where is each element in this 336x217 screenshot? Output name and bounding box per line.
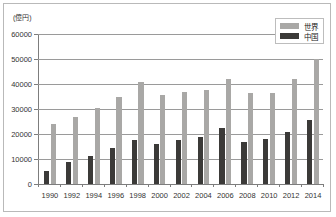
- bar-中国-1990: [44, 171, 49, 184]
- x-axis-tick: [148, 184, 149, 187]
- legend-item-世界: 世界: [280, 21, 318, 31]
- y-axis-tick-label: 40000: [11, 80, 32, 89]
- legend-swatch: [280, 23, 299, 29]
- bar-中国-2002: [176, 140, 181, 184]
- bar-中国-1992: [66, 162, 71, 184]
- x-axis-tick-label: 1998: [129, 191, 146, 200]
- bar-中国-2004: [198, 137, 203, 184]
- x-axis-tick: [213, 184, 214, 187]
- x-axis-tick: [126, 184, 127, 187]
- bar-世界-2014: [314, 59, 319, 184]
- bar-世界-1994: [95, 108, 100, 184]
- y-axis-tick-label: 50000: [11, 55, 32, 64]
- y-axis-tick: [34, 134, 38, 135]
- x-axis-tick-label: 1990: [42, 191, 59, 200]
- x-axis-tick-label: 2014: [305, 191, 322, 200]
- bar-世界-2000: [160, 95, 165, 184]
- x-axis-tick-label: 1996: [107, 191, 124, 200]
- bar-中国-2008: [241, 142, 246, 184]
- y-axis-tick-label: 20000: [11, 130, 32, 139]
- x-axis-tick: [235, 184, 236, 187]
- x-axis-tick-label: 2010: [261, 191, 278, 200]
- x-axis-tick: [104, 184, 105, 187]
- bar-世界-2010: [270, 93, 275, 185]
- bar-中国-1994: [88, 156, 93, 184]
- x-axis-tick-label: 2004: [195, 191, 212, 200]
- gridline: [38, 59, 323, 60]
- y-axis-tick-label: 60000: [11, 30, 32, 39]
- y-axis-tick-label: 0: [28, 180, 32, 189]
- x-axis-tick-label: 2000: [151, 191, 168, 200]
- x-axis-tick-label: 1994: [85, 191, 102, 200]
- x-axis-tick-label: 2008: [239, 191, 256, 200]
- gridline: [38, 134, 323, 135]
- x-axis-tick: [323, 184, 324, 187]
- x-axis-tick: [60, 184, 61, 187]
- x-axis-tick-label: 2012: [283, 191, 300, 200]
- bar-世界-1992: [73, 117, 78, 184]
- y-axis-tick: [34, 109, 38, 110]
- bar-世界-2008: [248, 93, 253, 185]
- bar-中国-1996: [110, 148, 115, 185]
- plot-area: 0100002000030000400005000060000 19901992…: [38, 34, 323, 184]
- x-axis-tick: [279, 184, 280, 187]
- bar-世界-2012: [292, 79, 297, 185]
- bar-中国-2012: [285, 132, 290, 184]
- x-axis-tick-label: 2002: [173, 191, 190, 200]
- chart-frame: (億円) 0100002000030000400005000060000 199…: [3, 3, 331, 212]
- bar-中国-1998: [132, 140, 137, 185]
- x-axis-tick: [257, 184, 258, 187]
- bar-世界-1998: [138, 82, 143, 184]
- y-axis-tick: [34, 59, 38, 60]
- x-axis-tick: [191, 184, 192, 187]
- y-axis-tick: [34, 159, 38, 160]
- x-axis-line: [38, 184, 323, 185]
- bar-中国-2006: [219, 128, 224, 184]
- y-axis-tick-label: 30000: [11, 105, 32, 114]
- legend-label: 中国: [304, 31, 318, 42]
- x-axis-tick-label: 2006: [217, 191, 234, 200]
- bar-中国-2010: [263, 139, 268, 185]
- bar-中国-2000: [154, 144, 159, 185]
- legend-swatch: [280, 33, 299, 39]
- gridline: [38, 84, 323, 85]
- bar-世界-1990: [51, 124, 56, 184]
- x-axis-tick: [170, 184, 171, 187]
- x-axis-tick-label: 1992: [64, 191, 81, 200]
- bar-世界-2002: [182, 92, 187, 184]
- bar-世界-2006: [226, 79, 231, 185]
- gridline: [38, 109, 323, 110]
- x-axis-tick: [82, 184, 83, 187]
- bar-世界-1996: [116, 97, 121, 184]
- y-axis-unit-label: (億円): [13, 12, 32, 22]
- bar-chart: (億円) 0100002000030000400005000060000 199…: [4, 4, 332, 213]
- y-axis-tick: [34, 84, 38, 85]
- bar-世界-2004: [204, 90, 209, 184]
- x-axis-tick: [38, 184, 39, 187]
- y-axis-tick: [34, 34, 38, 35]
- y-axis-tick-label: 10000: [11, 155, 32, 164]
- bar-中国-2014: [307, 120, 312, 184]
- chart-legend: 世界中国: [275, 18, 324, 44]
- legend-item-中国: 中国: [280, 31, 318, 41]
- x-axis-tick: [301, 184, 302, 187]
